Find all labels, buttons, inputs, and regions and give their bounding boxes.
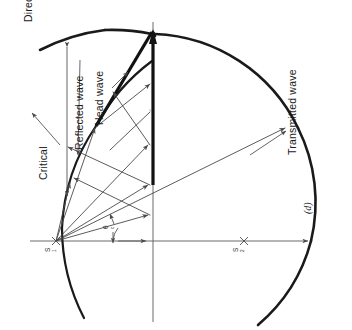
direct-wavefront <box>105 30 152 34</box>
label-transmitted-wave: Transmitted wave <box>286 69 298 155</box>
label-direct-wave: Direct wave <box>22 0 34 22</box>
label-critical: Critical <box>37 146 49 180</box>
label-source: S <box>44 247 51 252</box>
ray-reflected-3 <box>113 92 150 145</box>
ray-transmitted <box>56 128 285 241</box>
label-image-subscript: 2 <box>240 249 245 252</box>
figure-root: Direct wave Reflected wave Head wave Cri… <box>0 0 352 330</box>
transmitted-wavefront-lower <box>258 241 311 325</box>
transmitted-wavefront-upper <box>155 34 298 128</box>
transmitted-wavefront-mid <box>298 128 316 241</box>
label-critical-angle-subscript: c <box>110 226 115 229</box>
ray-reflected-2 <box>74 178 150 215</box>
leader-critical <box>32 113 60 145</box>
reflected-wavefront-lower <box>62 228 84 318</box>
wavefront-diagram: Direct wave Reflected wave Head wave Cri… <box>0 0 352 330</box>
direct-wavefront-cap <box>40 30 105 50</box>
label-image-source: S <box>232 247 239 252</box>
label-head-wave: Head wave <box>93 71 105 125</box>
label-critical-angle: θ <box>102 225 109 229</box>
label-reflected-wave: Reflected wave <box>73 75 85 150</box>
critical-angle-pointer-up <box>110 214 114 224</box>
ray-reflected-1 <box>68 147 150 185</box>
ray-headwave-feed-2 <box>110 112 150 150</box>
label-source-subscript: 1 <box>52 249 57 252</box>
figure-label: (d) <box>302 202 314 214</box>
